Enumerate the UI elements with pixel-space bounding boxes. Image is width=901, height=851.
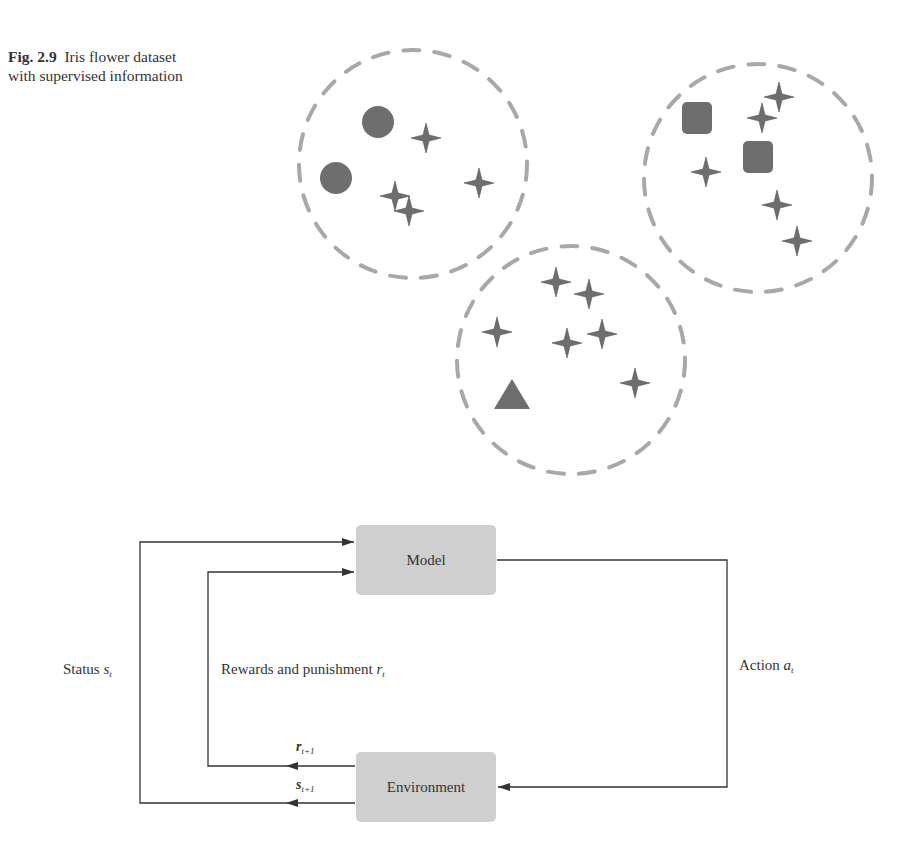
unlabeled-star-icon <box>380 181 410 211</box>
next-reward-sub: t+1 <box>301 746 314 756</box>
action-sub: t <box>791 665 794 675</box>
cluster-triangles-boundary <box>457 246 685 474</box>
unlabeled-star-icon <box>464 168 494 198</box>
reward-mid-arrow <box>286 762 298 770</box>
reward-label: Rewards and punishment rt <box>221 661 385 679</box>
reward-sub: t <box>382 669 385 679</box>
unlabeled-star-icon <box>411 123 441 153</box>
status-text: Status <box>63 661 100 677</box>
labeled-triangle-icon <box>494 379 530 409</box>
next-reward-label: rt+1 <box>296 739 315 756</box>
next-state-label: st+1 <box>296 777 315 794</box>
labeled-square-icon <box>682 102 712 134</box>
labeled-circle-icon <box>362 106 394 138</box>
unlabeled-star-icon <box>691 157 721 187</box>
diagram-canvas <box>0 0 901 851</box>
action-label: Action at <box>739 657 794 675</box>
model-label: Model <box>406 552 445 569</box>
next-state-sub: t+1 <box>301 784 314 794</box>
labeled-square-icon <box>743 141 773 173</box>
action-text: Action <box>739 657 780 673</box>
cluster-plot <box>299 50 872 474</box>
model-box: Model <box>356 525 496 595</box>
environment-label: Environment <box>387 779 465 796</box>
unlabeled-star-icon <box>482 317 512 347</box>
unlabeled-star-icon <box>762 190 792 220</box>
unlabeled-star-icon <box>552 328 582 358</box>
reward-text: Rewards and punishment <box>221 661 373 677</box>
status-label: Status st <box>63 661 112 679</box>
status-sub: t <box>109 669 112 679</box>
cluster-squares-boundary <box>644 64 872 292</box>
action-line <box>497 560 727 787</box>
environment-box: Environment <box>356 752 496 822</box>
action-var: a <box>784 657 792 673</box>
unlabeled-star-icon <box>587 319 617 349</box>
unlabeled-star-icon <box>541 267 571 297</box>
unlabeled-star-icon <box>394 196 424 226</box>
unlabeled-star-icon <box>574 279 604 309</box>
unlabeled-star-icon <box>764 82 794 112</box>
unlabeled-star-icon <box>620 368 650 398</box>
labeled-circle-icon <box>320 162 352 194</box>
unlabeled-star-icon <box>747 103 777 133</box>
unlabeled-star-icon <box>782 226 812 256</box>
state-mid-arrow <box>286 799 298 807</box>
